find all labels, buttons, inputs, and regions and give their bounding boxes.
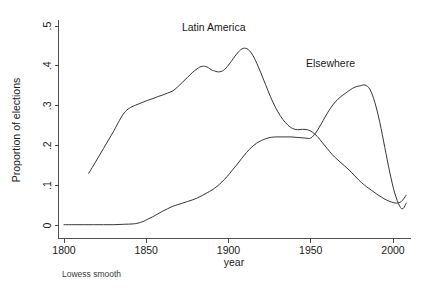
data-line-latin-america	[89, 48, 406, 203]
x-tick-label: 1900	[217, 244, 241, 256]
data-line-elsewhere	[64, 85, 406, 225]
y-tick-label: .4	[41, 61, 53, 70]
x-tick-label: 1850	[135, 244, 159, 256]
chart-caption: Lowess smooth	[62, 269, 121, 279]
y-axis-title: Proportion of elections	[10, 78, 22, 182]
y-tick-label: .1	[41, 181, 53, 190]
x-axis: 18001850190019502000	[52, 239, 411, 256]
y-tick-label: .5	[41, 21, 53, 30]
y-tick-label: .2	[41, 141, 53, 150]
series-label-latin-america: Latin America	[182, 21, 246, 33]
chart-figure: 0.1.2.3.4.5 18001850190019502000 Latin A…	[0, 0, 428, 295]
y-axis: 0.1.2.3.4.5	[41, 20, 58, 239]
data-series-group	[64, 48, 406, 225]
y-axis-ticks: 0.1.2.3.4.5	[41, 21, 58, 228]
x-axis-title: year	[224, 256, 245, 268]
x-tick-label: 2000	[381, 244, 405, 256]
y-tick-label: 0	[41, 222, 53, 228]
series-label-elsewhere: Elsewhere	[306, 57, 355, 69]
proportion-of-elections-line-chart: 0.1.2.3.4.5 18001850190019502000 Latin A…	[0, 0, 428, 295]
x-axis-ticks: 18001850190019502000	[52, 239, 405, 256]
series-annotations: Latin AmericaElsewhere	[182, 21, 355, 69]
x-tick-label: 1950	[299, 244, 323, 256]
x-tick-label: 1800	[52, 244, 76, 256]
y-tick-label: .3	[41, 101, 53, 110]
